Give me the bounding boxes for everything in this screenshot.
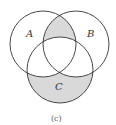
caption: (c) (51, 114, 62, 123)
label-b: B (86, 28, 94, 39)
label-c: C (55, 81, 63, 92)
label-a: A (25, 28, 33, 39)
venn-diagram: A B C (c) (0, 0, 116, 125)
